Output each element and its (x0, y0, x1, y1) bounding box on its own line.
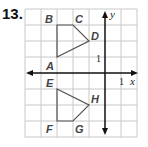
vertex-a-label: A (45, 60, 54, 72)
x-axis-label: x (129, 75, 135, 87)
vertex-b-label: B (45, 13, 53, 25)
vertex-d-label: D (91, 30, 99, 42)
vertex-f-label: F (46, 123, 53, 135)
vertex-g-label: G (75, 123, 84, 135)
x-unit-label: 1 (119, 76, 124, 87)
y-unit-label: 1 (96, 53, 101, 64)
y-axis-label: y (109, 8, 115, 20)
vertex-c-label: C (75, 13, 84, 25)
coordinate-grid: y x 1 1 B C D A E H F G (0, 0, 148, 147)
vertex-h-label: H (91, 93, 100, 105)
vertex-e-label: E (46, 77, 54, 89)
